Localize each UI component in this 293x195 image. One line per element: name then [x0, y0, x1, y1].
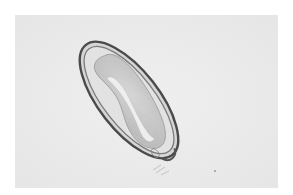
parasite-egg-image	[15, 15, 278, 188]
micrograph-field	[15, 15, 278, 188]
debris-dot	[214, 170, 216, 172]
